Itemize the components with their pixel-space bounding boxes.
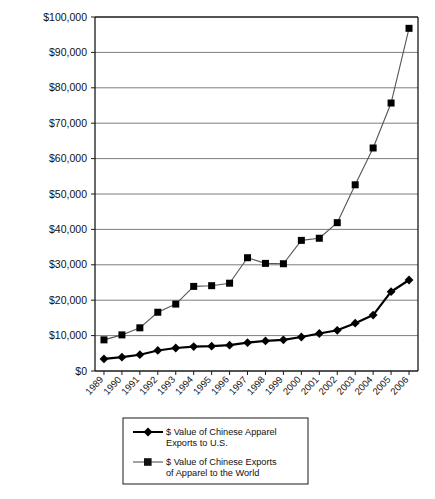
square-marker-icon: [172, 301, 179, 308]
square-marker-icon: [388, 100, 395, 107]
square-marker-icon: [316, 235, 323, 242]
square-marker-icon: [244, 254, 251, 261]
square-marker-icon: [100, 336, 107, 343]
y-axis-tick-label: $40,000: [49, 223, 87, 235]
square-marker-icon: [280, 260, 287, 267]
square-marker-icon: [352, 181, 359, 188]
square-marker-icon: [406, 25, 413, 32]
square-marker-icon: [370, 144, 377, 151]
y-axis-tick-label: $70,000: [49, 117, 87, 129]
y-axis-tick-label: $60,000: [49, 152, 87, 164]
y-axis-tick-label: $0: [75, 365, 87, 377]
square-marker-icon: [208, 282, 215, 289]
legend-label-world-line1: $ Value of Chinese Exports: [166, 457, 277, 467]
line-chart: $0$10,000$20,000$30,000$40,000$50,000$60…: [0, 0, 435, 499]
y-axis-tick-label: $10,000: [49, 329, 87, 341]
y-axis-tick-label: $20,000: [49, 294, 87, 306]
square-marker-icon: [298, 237, 305, 244]
square-marker-icon: [226, 280, 233, 287]
square-marker-icon: [190, 283, 197, 290]
square-marker-icon: [144, 458, 152, 466]
chart-legend: $ Value of Chinese Apparel Exports to U.…: [123, 418, 308, 484]
y-axis-tick-label: $90,000: [49, 46, 87, 58]
square-marker-icon: [154, 309, 161, 316]
chart-container: $0$10,000$20,000$30,000$40,000$50,000$60…: [0, 0, 435, 499]
y-axis-tick-label: $50,000: [49, 188, 87, 200]
square-marker-icon: [262, 260, 269, 267]
legend-label-world-line2: of Apparel to the World: [166, 468, 259, 478]
legend-label-us-line2: Exports to U.S.: [166, 438, 228, 448]
square-marker-icon: [118, 331, 125, 338]
square-marker-icon: [334, 219, 341, 226]
y-axis-tick-label: $80,000: [49, 81, 87, 93]
square-marker-icon: [136, 324, 143, 331]
legend-label-us-line1: $ Value of Chinese Apparel: [166, 427, 277, 437]
y-axis-tick-label: $100,000: [43, 11, 87, 23]
y-axis-tick-label: $30,000: [49, 258, 87, 270]
